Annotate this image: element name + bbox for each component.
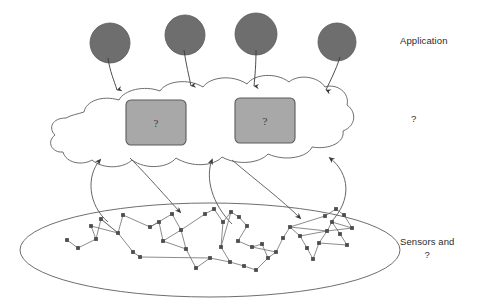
sensor-node <box>65 238 69 242</box>
sensor-node <box>317 241 321 245</box>
sensor-node <box>325 229 329 233</box>
sensor-node <box>89 224 93 228</box>
sensor-node <box>148 225 152 229</box>
sensor-link <box>159 222 163 241</box>
sensor-node <box>116 231 120 235</box>
sensor-link <box>163 230 181 241</box>
sensor-node <box>342 213 346 217</box>
sensor-field-ellipse <box>20 203 400 297</box>
sensor-node <box>260 242 264 246</box>
sensor-node <box>298 234 302 238</box>
sensor-link <box>238 241 252 247</box>
sensor-node <box>219 245 223 249</box>
sensor-link <box>300 231 327 236</box>
sensor-link <box>327 228 352 231</box>
arrow-app-to-cloud <box>184 50 191 86</box>
sensor-node <box>245 224 249 228</box>
sensor-node <box>305 246 309 250</box>
sensor-link <box>210 258 230 262</box>
sensor-node <box>281 236 285 240</box>
sensor-node <box>179 228 183 232</box>
arrow-app-to-cloud <box>326 57 340 90</box>
arrow-sensors-to-cloud <box>330 158 346 222</box>
label-cloud: ? <box>411 113 416 124</box>
sensor-link <box>262 244 268 258</box>
sensor-link <box>91 226 96 239</box>
sensor-node <box>212 207 216 211</box>
sensor-network-nodes <box>65 207 354 272</box>
sensor-link <box>221 247 230 262</box>
sensor-link <box>238 226 247 241</box>
sensor-link <box>118 215 123 233</box>
sensor-node <box>99 217 103 221</box>
sensor-node <box>236 239 240 243</box>
application-node-circle <box>90 23 130 63</box>
label-application: Application <box>400 35 448 46</box>
sensor-node <box>228 260 232 264</box>
sensor-node <box>274 250 278 254</box>
cloud-sensor-link-arrows <box>91 158 346 224</box>
sensor-node <box>208 256 212 260</box>
sensor-node <box>221 220 225 224</box>
sensor-node <box>345 243 349 247</box>
sensor-node <box>121 213 125 217</box>
application-nodes <box>90 13 356 63</box>
sensor-link <box>313 243 319 259</box>
label-sensors: Sensors and ? <box>400 235 454 261</box>
diagram-canvas: ? ? Application ? Sensors and ? <box>0 0 480 305</box>
sensor-link <box>150 214 172 227</box>
sensor-link <box>140 257 210 258</box>
sensor-node <box>131 250 135 254</box>
sensor-link <box>196 258 210 268</box>
sensor-node <box>311 257 315 261</box>
sensor-node <box>350 226 354 230</box>
sensor-node <box>138 255 142 259</box>
sensor-node <box>323 214 327 218</box>
label-sensors-line1: Sensors and <box>400 236 454 247</box>
sensor-network-edges <box>67 209 352 270</box>
sensor-node <box>242 264 246 268</box>
arrow-cloud-to-sensors <box>232 160 300 218</box>
sensor-node <box>203 212 207 216</box>
sensor-link <box>123 215 150 227</box>
sensor-node <box>76 246 80 250</box>
cloud-box-question-mark: ? <box>263 115 268 127</box>
sensor-node <box>184 247 188 251</box>
sensor-node <box>94 237 98 241</box>
sensor-node <box>194 266 198 270</box>
sensor-link <box>230 262 244 266</box>
sensor-node <box>334 207 338 211</box>
label-sensors-line2: ? <box>400 248 454 261</box>
application-node-circle <box>235 13 277 55</box>
sensor-node <box>161 239 165 243</box>
sensor-link <box>181 214 205 230</box>
sensor-node <box>229 210 233 214</box>
sensor-node <box>338 232 342 236</box>
sensor-link <box>181 230 186 249</box>
sensor-node <box>170 212 174 216</box>
sensor-node <box>254 268 258 272</box>
sensor-link <box>96 219 101 239</box>
sensor-link <box>276 238 283 252</box>
application-node-circle <box>165 15 205 55</box>
sensor-link <box>118 233 133 252</box>
sensor-link <box>172 214 181 230</box>
sensor-node <box>250 245 254 249</box>
sensor-node <box>330 220 334 224</box>
sensor-link <box>290 227 327 231</box>
application-node-circle <box>318 23 356 61</box>
sensor-link <box>186 249 196 268</box>
sensor-link <box>290 216 325 227</box>
sensor-node <box>266 256 270 260</box>
cloud-shape <box>51 75 354 166</box>
sensor-node <box>288 225 292 229</box>
sensor-link <box>319 243 347 245</box>
cloud-box-question-mark: ? <box>154 117 159 129</box>
sensor-node <box>237 215 241 219</box>
sensor-link <box>78 239 96 248</box>
sensor-node <box>157 220 161 224</box>
sensor-link <box>163 241 186 249</box>
